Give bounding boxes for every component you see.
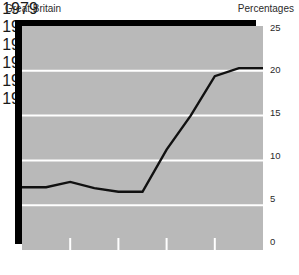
- y-tick-20: 20: [270, 64, 281, 75]
- plot-block: [15, 20, 263, 250]
- plot-panel: [22, 26, 263, 250]
- x-tick-marks: [70, 238, 215, 250]
- plot-svg: [22, 26, 263, 250]
- y-tick-15: 15: [270, 107, 281, 118]
- series-line-percentage: [22, 68, 263, 192]
- region-label: Great Britain: [5, 3, 61, 15]
- chart-figure: Great Britain Percentages 25 20 15 10 5 …: [0, 0, 299, 275]
- y-tick-5: 5: [270, 193, 275, 204]
- y-tick-10: 10: [270, 150, 281, 161]
- units-label: Percentages: [238, 3, 294, 15]
- y-tick-0: 0: [270, 236, 275, 247]
- y-tick-25: 25: [270, 22, 281, 33]
